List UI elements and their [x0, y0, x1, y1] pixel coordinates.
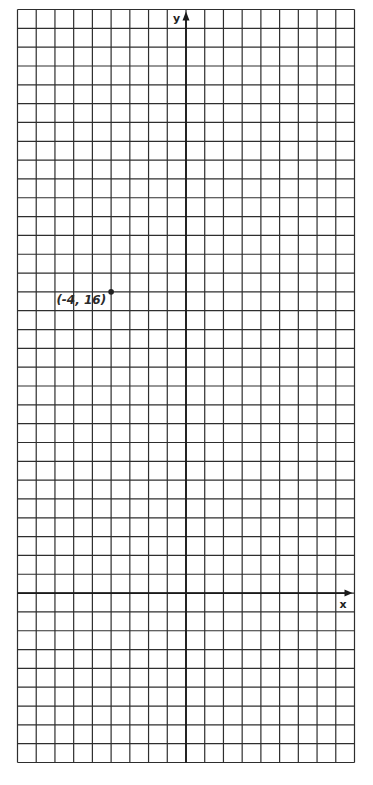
data-point	[108, 289, 114, 295]
x-axis-arrowhead	[345, 590, 353, 597]
data-point-label: (-4, 16)	[56, 293, 106, 307]
y-axis-label: y	[173, 12, 180, 25]
coordinate-grid: x y (-4, 16)	[0, 0, 373, 785]
x-axis-label: x	[340, 598, 347, 611]
y-axis-arrowhead	[183, 12, 190, 21]
